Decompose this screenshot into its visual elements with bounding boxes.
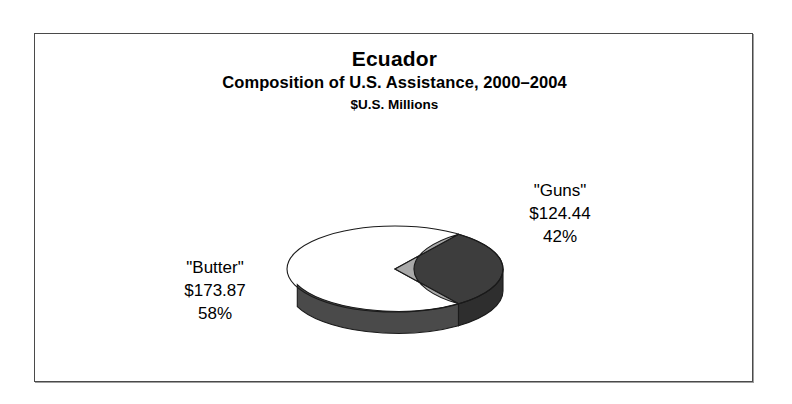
slice-label-guns: "Guns" $124.44 42% — [490, 179, 630, 248]
chart-frame: Ecuador Composition of U.S. Assistance, … — [34, 33, 753, 382]
slice-label-guns-percent: 42% — [490, 225, 630, 248]
slice-label-butter-value: $173.87 — [140, 279, 290, 302]
slice-label-guns-value: $124.44 — [490, 202, 630, 225]
slice-label-butter: "Butter" $173.87 58% — [140, 256, 290, 325]
slice-label-butter-percent: 58% — [140, 302, 290, 325]
pie-chart-area: "Guns" $124.44 42% "Butter" $173.87 58% — [35, 34, 754, 383]
slice-label-guns-name: "Guns" — [490, 179, 630, 202]
slice-label-butter-name: "Butter" — [140, 256, 290, 279]
screenshot-root: Ecuador Composition of U.S. Assistance, … — [0, 0, 792, 404]
